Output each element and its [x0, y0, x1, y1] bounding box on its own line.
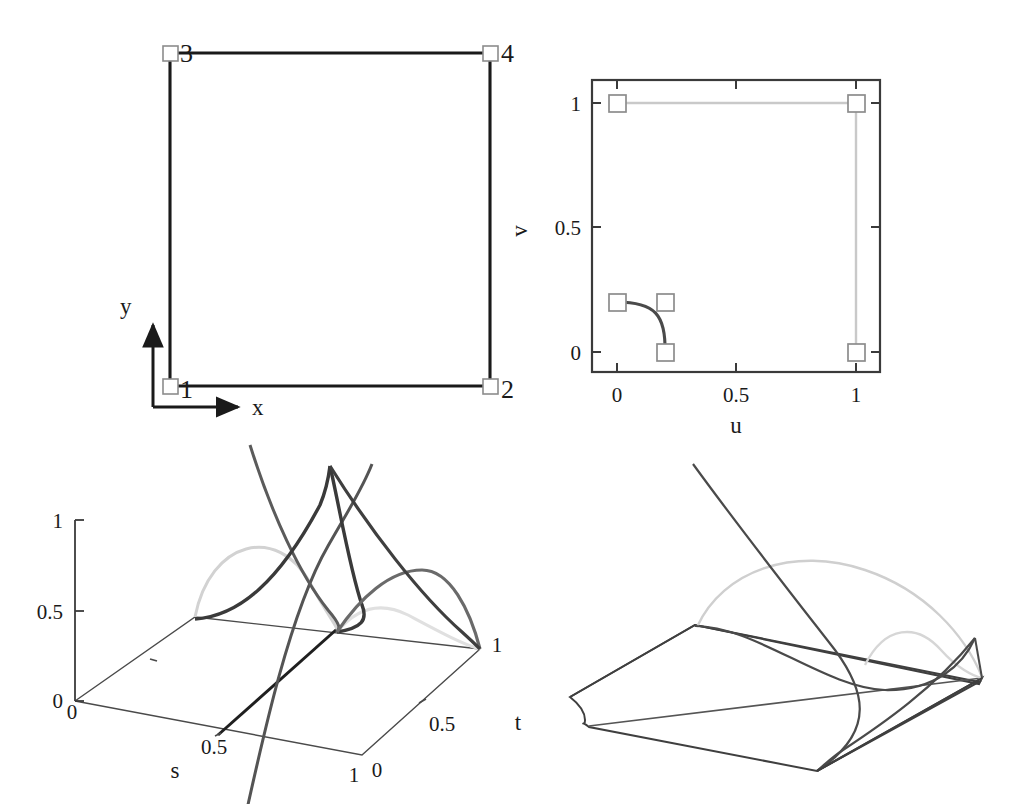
figure-root: 1 2 3 4 y x [0, 0, 1018, 804]
xy-quadrilateral-panel: 1 2 3 4 y x [60, 10, 540, 430]
corner-marker-1 [163, 379, 178, 394]
base-plane-back-edges [75, 617, 480, 701]
uv-parameter-panel: 0 0.5 1 0 0.5 1 u v [505, 35, 965, 435]
basis-curve-dark-arc [695, 626, 975, 690]
u-tick-label-0-5: 0.5 [723, 383, 749, 407]
basis-curve-dark-rise [195, 466, 330, 619]
u-tick-label-1: 1 [851, 383, 862, 407]
v-tick-label-1: 1 [571, 92, 582, 116]
corner-marker-4 [483, 46, 498, 61]
uv-marker-0-1 [609, 95, 626, 112]
quadrilateral-outline [170, 53, 490, 386]
t-tick-0-5 [419, 699, 426, 703]
basis-surface-left-svg: 1 0.5 0 0 0.5 1 0 0.5 1 [10, 420, 590, 804]
s-tick-label-1: 1 [349, 763, 360, 787]
uv-marker-1-1 [848, 95, 865, 112]
t-tick-label-0-5: 0.5 [429, 712, 455, 736]
corner-marker-2 [483, 379, 498, 394]
uv-marker-1-0 [848, 344, 865, 361]
v-axis-label: v [507, 225, 532, 237]
corner-label-1: 1 [180, 375, 193, 404]
basis-curve-steep [250, 445, 339, 632]
basis-function-surface-left-panel: 1 0.5 0 0 0.5 1 0 0.5 1 [10, 420, 590, 804]
corner-marker-3 [163, 46, 178, 61]
y-axis-label: y [120, 294, 132, 319]
t-tick-label-1: 1 [492, 633, 503, 657]
ruled-sheet-outline [570, 625, 982, 771]
light-trim-edges [617, 103, 856, 352]
uv-marker-02-0 [657, 344, 674, 361]
ruling-peak-to-corner [975, 638, 982, 678]
z-tick-label-0: 0 [53, 689, 64, 713]
ruled-sheet-upper-facet [570, 625, 979, 771]
basis-function-surface-right-panel [545, 420, 1015, 804]
t-tick-label-0: 0 [372, 758, 383, 782]
s-axis-label: s [171, 758, 180, 783]
basis-arch-light [697, 561, 982, 677]
s-tick-label-0: 0 [67, 700, 78, 724]
ruling-bottom-to-corner [817, 678, 982, 771]
basis-curve-mid [337, 570, 480, 649]
z-tick-label-0-5: 0.5 [37, 600, 63, 624]
uv-parameter-svg: 0 0.5 1 0 0.5 1 u v [505, 35, 965, 435]
uv-marker-02-02 [657, 294, 674, 311]
u-tick-label-0: 0 [612, 383, 623, 407]
corner-label-3: 3 [180, 39, 193, 68]
s-tick-inner [150, 659, 157, 661]
basis-surface-right-svg [545, 420, 1015, 804]
plot-frame [592, 80, 880, 372]
z-tick-label-1: 1 [53, 509, 64, 533]
v-tick-label-0: 0 [571, 341, 582, 365]
x-axis-label: x [252, 395, 264, 420]
basis-curve-dark-descending [693, 464, 860, 771]
s-tick-label-0-5: 0.5 [201, 735, 227, 759]
v-tick-label-0-5: 0.5 [555, 216, 581, 240]
xy-quadrilateral-svg: 1 2 3 4 y x [60, 10, 540, 430]
uv-marker-0-02 [609, 294, 626, 311]
basis-curve-dark-right [330, 466, 480, 649]
t-axis-label: t [515, 710, 522, 735]
